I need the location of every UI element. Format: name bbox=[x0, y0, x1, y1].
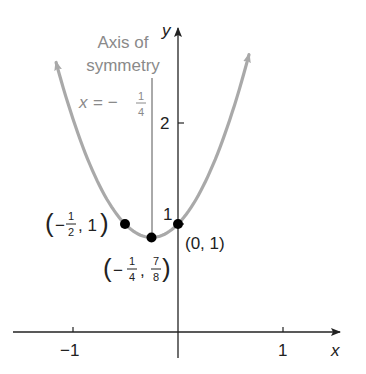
equation-equals-minus: = − bbox=[93, 93, 118, 112]
annotation-symmetry: symmetry bbox=[86, 56, 160, 75]
svg-text:1: 1 bbox=[68, 210, 74, 222]
x-tick-label-neg1: −1 bbox=[60, 341, 79, 360]
svg-text:, 1: , 1 bbox=[78, 216, 97, 235]
svg-text:): ) bbox=[162, 253, 171, 283]
svg-text:8: 8 bbox=[153, 271, 159, 283]
svg-text:): ) bbox=[100, 208, 109, 238]
parabola-curve bbox=[56, 55, 249, 238]
point-label-neg-half-1: ( − 1 2 , 1 ) bbox=[45, 208, 109, 238]
equation-num: 1 bbox=[138, 90, 144, 102]
svg-text:−: − bbox=[113, 261, 123, 280]
svg-text:(: ( bbox=[45, 208, 54, 238]
x-axis-label: x bbox=[330, 341, 340, 360]
point-neg-half-1 bbox=[120, 219, 130, 229]
svg-text:7: 7 bbox=[153, 255, 159, 267]
svg-text:2: 2 bbox=[68, 226, 74, 238]
point-vertex bbox=[147, 233, 157, 243]
y-tick-label-1: 1 bbox=[163, 205, 172, 224]
svg-text:4: 4 bbox=[129, 271, 135, 283]
point-label-0-1: (0, 1) bbox=[185, 234, 225, 253]
svg-text:(: ( bbox=[103, 253, 112, 283]
parabola-chart: Axis of symmetry x = − 1 4 y x 2 1 −1 1 … bbox=[0, 0, 366, 374]
y-axis-label: y bbox=[161, 21, 172, 40]
y-tick-label-2: 2 bbox=[160, 114, 169, 133]
equation-den: 4 bbox=[138, 106, 144, 118]
svg-text:−: − bbox=[55, 216, 65, 235]
equation-x: x bbox=[78, 93, 88, 112]
svg-text:,: , bbox=[140, 261, 145, 280]
x-tick-label-1: 1 bbox=[278, 341, 287, 360]
point-0-1 bbox=[173, 219, 183, 229]
svg-text:1: 1 bbox=[129, 255, 135, 267]
point-label-vertex: ( − 1 4 , 7 8 ) bbox=[103, 253, 171, 283]
annotation-axis-of: Axis of bbox=[97, 33, 148, 52]
